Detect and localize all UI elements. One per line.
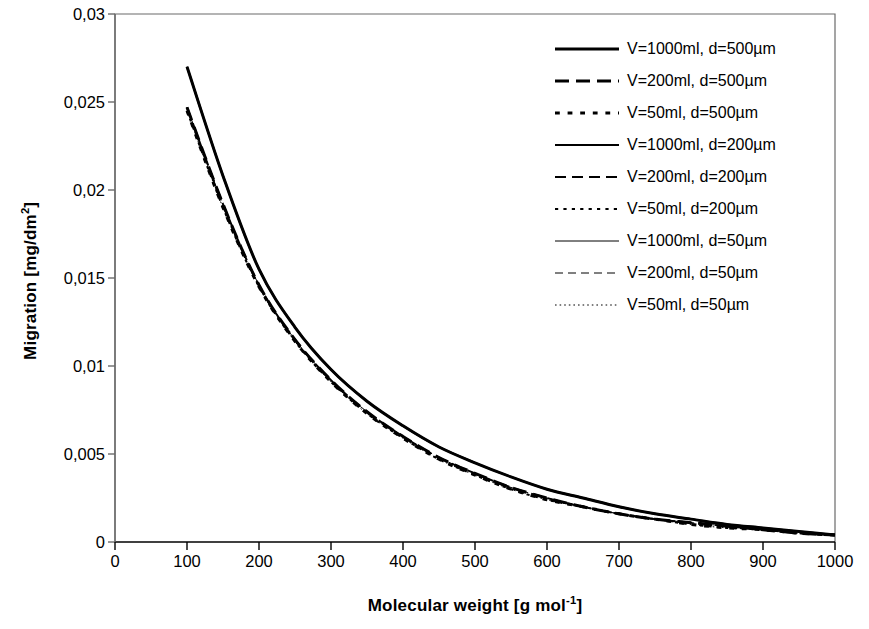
legend-item: V=50ml, d=200µm [553,193,835,225]
legend-item: V=1000ml, d=200µm [553,129,835,161]
legend-item: V=1000ml, d=500µm [553,33,835,65]
chart-figure: Migration [mg/dm2] Molecular weight [g m… [0,0,869,629]
chart-legend: V=1000ml, d=500µmV=200ml, d=500µmV=50ml,… [553,33,835,321]
legend-item-label: V=50ml, d=500µm [627,105,758,121]
legend-line-sample [553,41,621,57]
legend-item-label: V=1000ml, d=200µm [627,137,776,153]
legend-item-label: V=200ml, d=200µm [627,169,767,185]
legend-line-sample [553,137,621,153]
legend-item: V=50ml, d=50µm [553,289,835,321]
legend-line-sample [553,265,621,281]
legend-item: V=200ml, d=500µm [553,65,835,97]
legend-item-label: V=50ml, d=50µm [627,297,749,313]
legend-line-sample [553,169,621,185]
legend-item-label: V=1000ml, d=500µm [627,41,776,57]
legend-item-label: V=1000ml, d=50µm [627,233,767,249]
legend-line-sample [553,73,621,89]
legend-line-sample [553,105,621,121]
legend-item-label: V=200ml, d=500µm [627,73,767,89]
legend-item-label: V=200ml, d=50µm [627,265,758,281]
legend-line-sample [553,233,621,249]
legend-line-sample [553,297,621,313]
legend-item-label: V=50ml, d=200µm [627,201,758,217]
legend-item: V=200ml, d=200µm [553,161,835,193]
legend-item: V=1000ml, d=50µm [553,225,835,257]
legend-line-sample [553,201,621,217]
legend-item: V=200ml, d=50µm [553,257,835,289]
legend-item: V=50ml, d=500µm [553,97,835,129]
